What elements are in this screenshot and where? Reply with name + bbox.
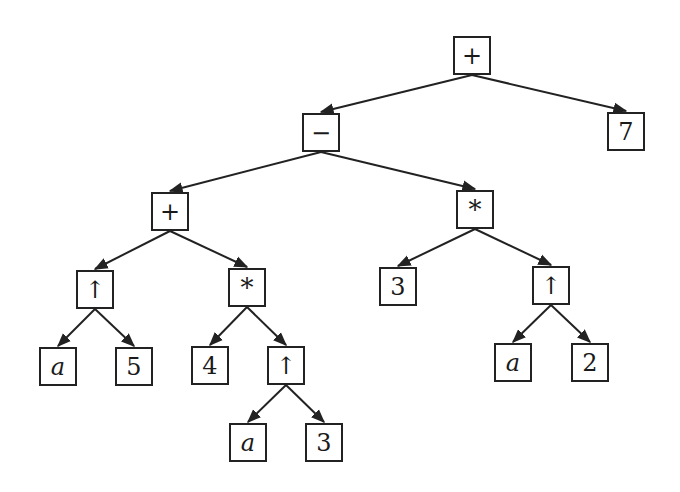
node-variable-a: a xyxy=(229,423,267,462)
edge-arrow xyxy=(321,75,472,112)
node-operator-power: ↑ xyxy=(76,270,114,309)
node-operator-plus: + xyxy=(151,192,189,231)
edge-arrow xyxy=(475,229,551,265)
node-constant-four: 4 xyxy=(191,346,229,385)
edge-arrow xyxy=(247,307,286,345)
tree-edges xyxy=(0,0,680,492)
node-operator-plus: + xyxy=(453,36,491,75)
node-operator-minus: − xyxy=(302,113,340,152)
edge-arrow xyxy=(321,152,475,189)
edge-arrow xyxy=(248,385,286,422)
node-operator-power: ↑ xyxy=(267,346,305,385)
node-constant-five: 5 xyxy=(115,347,153,386)
edge-arrow xyxy=(170,152,321,191)
edge-arrow xyxy=(286,385,324,422)
node-operator-times: * xyxy=(228,268,266,307)
edge-arrow xyxy=(58,309,95,346)
node-constant-seven: 7 xyxy=(607,112,645,151)
node-constant-three: 3 xyxy=(379,267,417,306)
edge-arrow xyxy=(513,305,551,342)
edge-arrow xyxy=(95,309,134,346)
node-variable-a: a xyxy=(494,343,532,382)
node-variable-a: a xyxy=(39,347,77,386)
edge-arrow xyxy=(398,229,475,266)
node-constant-three: 3 xyxy=(305,423,343,462)
edge-arrow xyxy=(95,231,170,269)
expression-tree-diagram: +−7+*↑*3↑a54↑a2a3 xyxy=(0,0,680,492)
node-constant-two: 2 xyxy=(571,343,609,382)
edge-arrow xyxy=(472,75,626,111)
edge-arrow xyxy=(170,231,247,267)
edge-arrow xyxy=(210,307,247,345)
node-operator-power: ↑ xyxy=(532,266,570,305)
node-operator-times: * xyxy=(456,190,494,229)
edge-arrow xyxy=(551,305,590,342)
